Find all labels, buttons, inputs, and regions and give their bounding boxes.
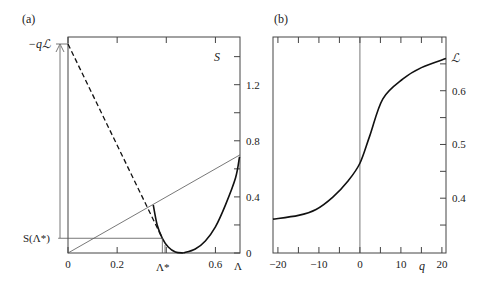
y-tick-label: 0.4	[452, 192, 466, 204]
y-tick-label: 0.4	[246, 191, 260, 203]
series-s-left-branch	[153, 205, 183, 253]
y-tick-label: 0.8	[246, 135, 260, 147]
panel-b-ticks: −20−10010200.40.50.6	[269, 37, 466, 270]
y-tick-label: 0.5	[452, 138, 466, 150]
panel-a-series	[58, 44, 240, 253]
panel-a: (a) 00.20.600.40.81.2 S Λ −qℒ S(Λ*) Λ*	[22, 12, 260, 273]
annotation-S-lambda-star: S(Λ*)	[23, 232, 50, 245]
panel-a-ylabel: S	[214, 50, 220, 64]
x-tick-label: −20	[269, 258, 287, 270]
series-q	[273, 58, 446, 219]
annotation-minus-qL: −qℒ	[28, 37, 51, 51]
panel-b-label: (b)	[274, 12, 288, 26]
panel-b-frame	[273, 37, 446, 253]
panel-a-ticks: 00.20.600.40.81.2	[65, 37, 260, 270]
x-tick-label: 0.6	[209, 258, 223, 270]
x-tick-label: 20	[436, 258, 448, 270]
series-tangent-at	[68, 44, 162, 238]
y-tick-label: 0.6	[452, 85, 466, 97]
panel-b: (b) −20−10010200.40.50.6 ℒ q	[269, 12, 466, 273]
x-tick-label: 0	[65, 258, 71, 270]
x-tick-label: 10	[395, 258, 407, 270]
y-tick-label: 0	[246, 247, 252, 259]
panel-b-series	[273, 37, 446, 253]
panel-b-ylabel: ℒ	[451, 51, 460, 65]
panel-a-xlabel: Λ	[234, 260, 242, 272]
x-tick-label: −10	[310, 258, 328, 270]
x-tick-label: 0.2	[110, 258, 124, 270]
annotation-lambda-star: Λ*	[156, 261, 169, 273]
x-tick-label: 0	[357, 258, 363, 270]
panel-b-xlabel: q	[419, 259, 425, 273]
y-tick-label: 1.2	[246, 79, 260, 91]
figure: (a) 00.20.600.40.81.2 S Λ −qℒ S(Λ*) Λ* (…	[0, 0, 483, 283]
panel-a-label: (a)	[22, 12, 35, 26]
